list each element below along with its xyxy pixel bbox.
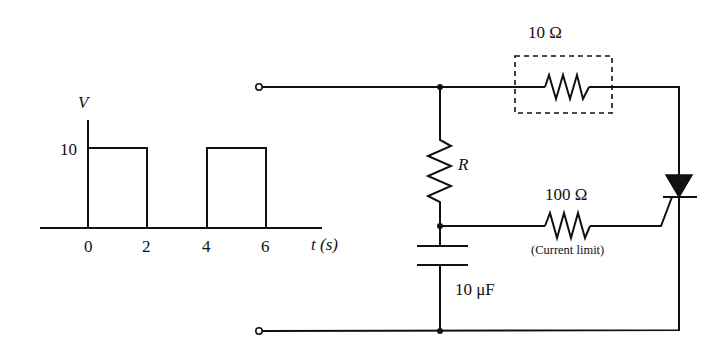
- gate-resistor-label: 100 Ω: [545, 185, 587, 204]
- top-rail-right: [589, 87, 679, 175]
- pulse-2: [207, 148, 266, 228]
- tick-0: 0: [84, 237, 93, 256]
- resistor-10-ohm: [545, 75, 589, 99]
- tick-2: 2: [142, 237, 151, 256]
- input-terminal-top: [256, 84, 262, 90]
- tick-4: 4: [202, 237, 211, 256]
- resistor-r: [428, 87, 451, 226]
- dashed-box: [515, 56, 612, 113]
- x-axis-label: t (s): [311, 235, 338, 254]
- junction-bottom: [437, 328, 443, 334]
- y-axis-label: V: [78, 93, 91, 112]
- bottom-rail: [262, 329, 679, 331]
- r-label: R: [457, 155, 469, 174]
- pulse-1: [88, 148, 147, 228]
- tick-6: 6: [261, 237, 270, 256]
- circuit: 10 Ω R 10 μF 100 Ω (Current limit): [256, 23, 697, 334]
- circuit-diagram: V 10 0 2 4 6 t (s) 10 Ω R 10 μF 100: [0, 0, 728, 351]
- top-resistor-label: 10 Ω: [528, 23, 562, 42]
- input-terminal-bottom: [256, 328, 262, 334]
- resistor-100-ohm: [545, 213, 590, 238]
- gate-resistor-note: (Current limit): [531, 243, 604, 257]
- gate-wire-right: [590, 197, 672, 226]
- capacitor-label: 10 μF: [455, 280, 495, 299]
- waveform-plot: V 10 0 2 4 6 t (s): [40, 93, 338, 256]
- scr-icon: [666, 175, 692, 197]
- level-10-label: 10: [60, 140, 77, 159]
